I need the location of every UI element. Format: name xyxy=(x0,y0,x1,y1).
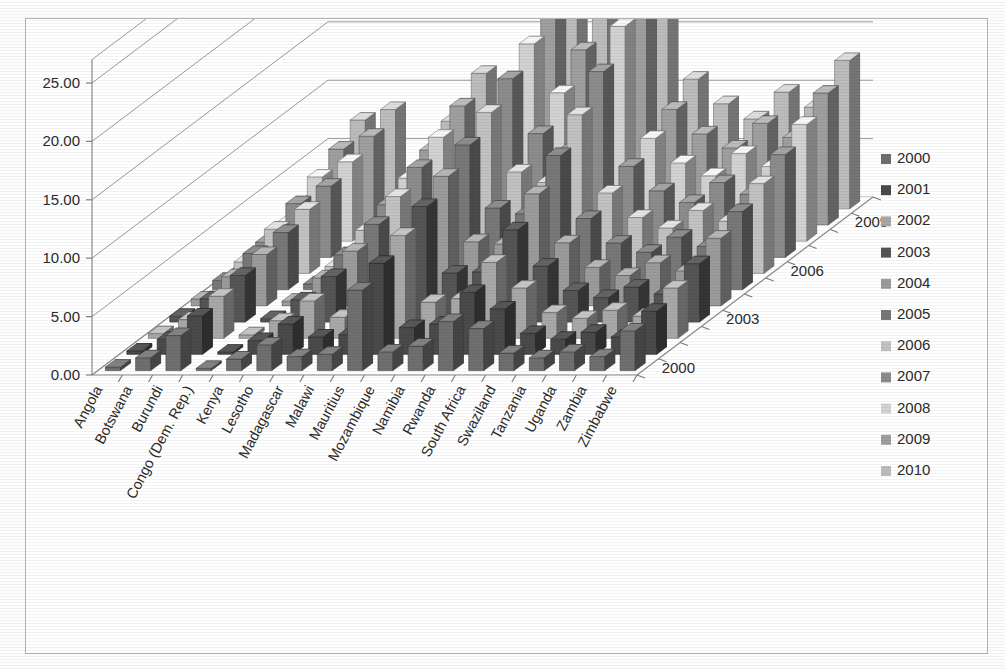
category-tick-16 xyxy=(603,375,607,382)
depth-axis-label-2003: 2003 xyxy=(726,310,759,327)
bar-SouthAfrica-2000[interactable] xyxy=(469,321,494,371)
depth-tick-3 xyxy=(701,327,709,330)
value-tick-label-10.00: 10.00 xyxy=(42,249,80,266)
depth-tick-11 xyxy=(873,197,881,200)
bar-Zimbabwe-2000[interactable] xyxy=(620,324,645,371)
legend-label-2004: 2004 xyxy=(897,274,930,291)
value-tick-label-5.00: 5.00 xyxy=(51,308,80,325)
legend-swatch-2005 xyxy=(881,310,891,320)
chart-3d-column[interactable]: 0.005.0010.0015.0020.0025.00AngolaBotswa… xyxy=(26,19,987,653)
category-tick-2 xyxy=(179,375,183,382)
legend-label-2002: 2002 xyxy=(897,211,930,228)
category-tick-6 xyxy=(300,375,304,382)
category-tick-8 xyxy=(361,375,365,382)
category-tick-7 xyxy=(330,375,334,382)
depth-tick-6 xyxy=(766,278,774,281)
value-tick-label-0.00: 0.00 xyxy=(51,366,80,383)
value-tick-label-25.00: 25.00 xyxy=(42,74,80,91)
depth-tick-0 xyxy=(637,375,645,378)
category-tick-13 xyxy=(512,375,516,382)
legend-swatch-2008 xyxy=(881,404,891,414)
legend-label-2008: 2008 xyxy=(897,399,930,416)
value-tick-label-15.00: 15.00 xyxy=(42,191,80,208)
value-tick-label-20.00: 20.00 xyxy=(42,132,80,149)
bar-Lesotho-2000[interactable] xyxy=(257,338,282,371)
legend-label-2003: 2003 xyxy=(897,243,930,260)
depth-tick-2 xyxy=(680,343,688,346)
category-tick-9 xyxy=(391,375,395,382)
legend-swatch-2010 xyxy=(881,466,891,476)
legend-swatch-2003 xyxy=(881,248,891,258)
depth-tick-8 xyxy=(809,246,817,249)
category-tick-1 xyxy=(149,375,153,382)
legend-swatch-2000 xyxy=(881,154,891,164)
bar-Namibia-2000[interactable] xyxy=(408,339,433,371)
depth-tick-5 xyxy=(744,294,752,297)
depth-axis-label-2000: 2000 xyxy=(662,359,695,376)
legend-label-2005: 2005 xyxy=(897,305,930,322)
bar-Burundi-2000[interactable] xyxy=(166,328,191,371)
legend-swatch-2004 xyxy=(881,279,891,289)
legend-swatch-2006 xyxy=(881,341,891,351)
bar-Rwanda-2000[interactable] xyxy=(438,314,463,371)
legend-swatch-2009 xyxy=(881,435,891,445)
depth-tick-9 xyxy=(830,229,838,232)
category-tick-15 xyxy=(572,375,576,382)
category-tick-10 xyxy=(421,375,425,382)
category-tick-3 xyxy=(209,375,213,382)
bar-Mauritius-2000[interactable] xyxy=(348,283,373,371)
chart-page: 0.005.0010.0015.0020.0025.00AngolaBotswa… xyxy=(0,0,1005,669)
legend-label-2001: 2001 xyxy=(897,180,930,197)
legend-swatch-2002 xyxy=(881,216,891,226)
legend-label-2007: 2007 xyxy=(897,367,930,384)
category-tick-11 xyxy=(451,375,455,382)
legend-swatch-2007 xyxy=(881,372,891,382)
category-tick-12 xyxy=(482,375,486,382)
legend-label-2010: 2010 xyxy=(897,461,930,478)
depth-axis-label-2006: 2006 xyxy=(791,262,824,279)
legend-label-2006: 2006 xyxy=(897,336,930,353)
legend-label-2000: 2000 xyxy=(897,149,930,166)
legend-label-2009: 2009 xyxy=(897,430,930,447)
category-tick-4 xyxy=(239,375,243,382)
category-tick-17 xyxy=(633,375,637,382)
legend-swatch-2001 xyxy=(881,185,891,195)
category-tick-0 xyxy=(118,375,122,382)
category-tick-14 xyxy=(542,375,546,382)
chart-frame: 0.005.0010.0015.0020.0025.00AngolaBotswa… xyxy=(25,18,988,654)
category-tick-5 xyxy=(270,375,274,382)
